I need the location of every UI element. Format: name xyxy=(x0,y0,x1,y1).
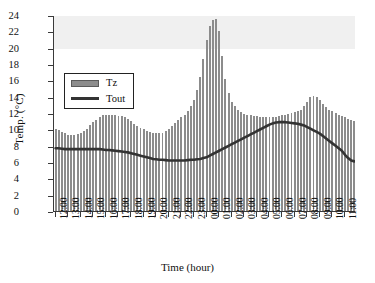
x-tick-mark xyxy=(180,212,181,217)
x-tick-mark xyxy=(319,212,320,217)
plot-area xyxy=(53,16,355,212)
x-tick-mark xyxy=(130,212,131,217)
x-tick-mark xyxy=(206,212,207,217)
y-tick-label: 24 xyxy=(0,11,19,21)
y-tick-label: 2 xyxy=(0,191,19,201)
legend-swatch-line-icon xyxy=(71,97,99,100)
x-tick-mark xyxy=(193,212,194,217)
y-tick-label: 8 xyxy=(0,142,19,152)
x-tick-mark xyxy=(155,212,156,217)
legend-item-tz: Tz xyxy=(71,78,125,89)
x-tick-mark xyxy=(55,212,56,217)
x-tick-mark xyxy=(306,212,307,217)
x-tick-mark xyxy=(231,212,232,217)
legend-label-tout: Tout xyxy=(106,94,125,105)
y-tick-label: 16 xyxy=(0,76,19,86)
y-tick-label: 4 xyxy=(0,174,19,184)
legend-label-tz: Tz xyxy=(106,78,117,89)
x-tick-mark xyxy=(294,212,295,217)
legend-item-tout: Tout xyxy=(71,94,125,105)
x-tick-mark xyxy=(268,212,269,217)
x-tick-mark xyxy=(80,212,81,217)
x-tick-label: 11:00 xyxy=(348,198,358,219)
y-tick-label: 20 xyxy=(0,44,19,54)
y-tick-label: 6 xyxy=(0,158,19,168)
chart-figure: Temp. (°C) 024681012141618202224 12:0013… xyxy=(0,0,375,283)
x-tick-mark xyxy=(67,212,68,217)
x-tick-mark xyxy=(105,212,106,217)
x-tick-mark xyxy=(281,212,282,217)
x-tick-mark xyxy=(331,212,332,217)
y-tick-label: 12 xyxy=(0,109,19,119)
x-tick-mark xyxy=(143,212,144,217)
x-tick-mark xyxy=(218,212,219,217)
x-tick-mark xyxy=(168,212,169,217)
y-tick-label: 0 xyxy=(0,207,19,217)
x-axis-title: Time (hour) xyxy=(0,261,375,273)
y-tick-label: 14 xyxy=(0,93,19,103)
x-tick-mark xyxy=(256,212,257,217)
x-tick-mark xyxy=(117,212,118,217)
x-tick-mark xyxy=(243,212,244,217)
y-tick-label: 10 xyxy=(0,125,19,135)
chart-legend: Tz Tout xyxy=(64,73,134,109)
tout-polyline xyxy=(56,122,355,161)
y-tick-mark xyxy=(48,212,53,213)
x-tick-mark xyxy=(344,212,345,217)
x-tick-mark xyxy=(92,212,93,217)
line-series-tout xyxy=(54,16,355,211)
legend-swatch-bar-icon xyxy=(71,80,99,87)
y-tick-label: 22 xyxy=(0,27,19,37)
y-tick-label: 18 xyxy=(0,60,19,70)
